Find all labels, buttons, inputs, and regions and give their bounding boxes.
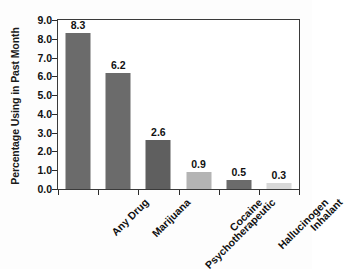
y-axis-tick-mark <box>52 39 57 40</box>
y-axis-tick-label: 6.0 <box>22 69 52 83</box>
x-axis-tick-mark <box>259 190 260 195</box>
bar-slot: 8.3 <box>58 20 98 189</box>
y-axis-tick-mark <box>52 58 57 59</box>
bar-value-label: 6.2 <box>111 59 126 71</box>
y-axis-tick-label: 7.0 <box>22 51 52 65</box>
bars-layer: 8.36.22.60.90.50.3 <box>58 20 299 189</box>
y-axis-tick-mark <box>52 133 57 134</box>
y-axis-tick-mark <box>52 151 57 152</box>
y-axis-tick-mark <box>52 76 57 77</box>
bar[interactable] <box>146 140 171 189</box>
y-axis-tick-label: 4.0 <box>22 107 52 121</box>
x-axis-tick-label[interactable]: Marijuana <box>149 196 192 239</box>
y-axis-tick-mark <box>52 95 57 96</box>
y-axis-tick-labels: 9.08.07.06.05.04.03.02.01.00.0 <box>22 14 52 190</box>
bar-slot: 0.3 <box>259 20 299 189</box>
bar-value-label: 0.3 <box>272 169 287 181</box>
y-axis-tick-label: 9.0 <box>22 13 52 27</box>
bar[interactable] <box>226 180 251 189</box>
bar[interactable] <box>266 183 291 189</box>
x-axis-tick-mark <box>219 190 220 195</box>
bar-value-label: 0.9 <box>191 158 206 170</box>
bar-slot: 6.2 <box>98 20 138 189</box>
x-axis-tick-label[interactable]: Psychotherapeutic <box>203 196 278 269</box>
x-axis-tick-mark <box>138 190 139 195</box>
bar-slot: 2.6 <box>138 20 178 189</box>
bar[interactable] <box>106 73 131 189</box>
bar[interactable] <box>186 172 211 189</box>
bar-value-label: 0.5 <box>231 166 246 178</box>
y-axis-tick-label: 1.0 <box>22 163 52 177</box>
y-axis-tick-label: 2.0 <box>22 144 52 158</box>
bar-value-label: 2.6 <box>151 126 166 138</box>
x-axis-tick-mark <box>58 190 59 195</box>
y-axis-tick-mark <box>52 189 57 190</box>
bar-slot: 0.9 <box>179 20 219 189</box>
bar-value-label: 8.3 <box>71 19 86 31</box>
x-axis-tick-mark <box>98 190 99 195</box>
x-axis-tick-label[interactable]: Any Drug <box>109 196 151 238</box>
y-axis-tick-label: 3.0 <box>22 126 52 140</box>
y-axis-tick-label: 5.0 <box>22 88 52 102</box>
y-axis-tick-label: 8.0 <box>22 32 52 46</box>
y-axis-tick-mark <box>52 170 57 171</box>
x-axis-tick-mark <box>299 190 300 195</box>
y-axis-tick-mark <box>52 114 57 115</box>
x-axis-tick-mark <box>179 190 180 195</box>
bar-slot: 0.5 <box>219 20 259 189</box>
y-axis-tick-mark <box>52 20 57 21</box>
y-axis-title: Percentage Using in Past Month <box>8 6 22 206</box>
bar[interactable] <box>66 33 91 189</box>
y-axis-tick-label: 0.0 <box>22 182 52 196</box>
